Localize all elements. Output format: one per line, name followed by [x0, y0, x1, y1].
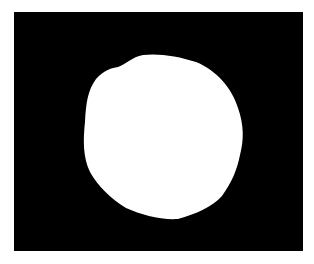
mask-blob — [0, 0, 314, 264]
